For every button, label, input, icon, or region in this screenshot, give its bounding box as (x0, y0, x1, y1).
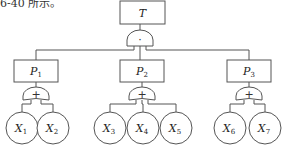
branches: P1+X1X2P2+X3X4X5P3+X6X7 (6, 60, 281, 144)
intermediate-event-p3: P3+X6X7 (214, 60, 281, 144)
intermediate-event-p1: P1+X1X2 (6, 60, 69, 144)
child-connector (142, 100, 143, 112)
fault-tree-diagram: T · P1+X1X2P2+X3X4X5P3+X6X7 (0, 0, 284, 154)
and-gate-outputs (36, 46, 249, 60)
child-connector (254, 100, 265, 112)
intermediate-event-p2: P2+X3X4X5 (94, 60, 192, 144)
child-connector (22, 100, 31, 112)
child-connector (148, 100, 176, 112)
child-connector (230, 100, 244, 112)
connector-to-p3 (146, 46, 249, 60)
connector-to-p1 (36, 46, 134, 60)
and-gate: · (127, 30, 153, 46)
or-gate-symbol: + (31, 88, 40, 101)
or-gate-symbol: + (137, 88, 146, 101)
or-gate-symbol: + (244, 88, 253, 101)
child-connector (110, 100, 136, 112)
top-event: T (120, 1, 165, 24)
child-connector (41, 100, 53, 112)
and-gate-symbol: · (138, 33, 142, 46)
